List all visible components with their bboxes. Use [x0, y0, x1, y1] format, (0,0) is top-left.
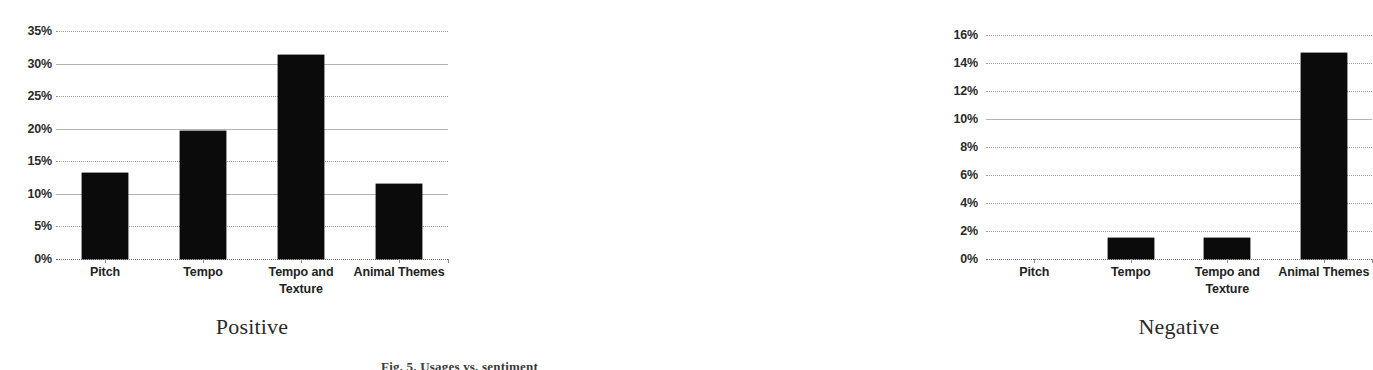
plot-area-negative — [986, 35, 1372, 259]
x-axis-labels-negative: PitchTempoTempo and TextureAnimal Themes — [986, 264, 1372, 308]
y-tick-label: 30% — [28, 57, 52, 71]
y-tick-label: 35% — [28, 24, 52, 38]
x-axis-tick — [1227, 259, 1228, 263]
panel-title-negative: Negative — [986, 314, 1372, 340]
bar-slot — [252, 31, 350, 259]
x-axis-tick — [1034, 259, 1035, 263]
bar[interactable] — [1204, 238, 1250, 259]
y-tick-label: 5% — [34, 219, 52, 233]
bar-slot — [986, 35, 1083, 259]
x-tick-label: Tempo and Texture — [252, 264, 350, 298]
y-axis-labels-positive: 0%5%10%15%20%25%30%35% — [8, 31, 52, 259]
y-tick-label: 20% — [28, 122, 52, 136]
chart-panel-positive: 0%5%10%15%20%25%30%35% PitchTempoTempo a… — [0, 0, 459, 348]
y-tick-label: 2% — [960, 224, 978, 238]
y-tick-label: 0% — [34, 252, 52, 266]
x-axis-labels-positive: PitchTempoTempo and TextureAnimal Themes — [56, 264, 448, 308]
x-axis-tick — [1131, 259, 1132, 263]
y-tick-label: 0% — [960, 252, 978, 266]
chart-panel-negative: 0%2%4%6%8%10%12%14%16% PitchTempoTempo a… — [460, 0, 919, 348]
y-tick-label: 10% — [28, 187, 52, 201]
bar-slot — [1083, 35, 1180, 259]
bar[interactable] — [82, 173, 128, 259]
bar[interactable] — [1301, 53, 1347, 259]
x-axis-tick — [301, 259, 302, 263]
bars-positive — [56, 31, 448, 259]
bar-slot — [154, 31, 252, 259]
x-tick-label: Tempo — [1083, 264, 1180, 281]
plot-area-positive — [56, 31, 448, 259]
bars-negative — [986, 35, 1372, 259]
x-axis-tick — [1324, 259, 1325, 263]
bar[interactable] — [180, 131, 226, 259]
figure-caption: Fig. 5. Usages vs. sentiment — [0, 359, 919, 370]
y-tick-label: 16% — [954, 28, 978, 42]
bar[interactable] — [376, 184, 422, 259]
y-tick-label: 12% — [954, 84, 978, 98]
x-tick-label: Tempo — [154, 264, 252, 281]
bar-slot — [1276, 35, 1373, 259]
y-axis-labels-negative: 0%2%4%6%8%10%12%14%16% — [934, 35, 978, 259]
x-tick-label: Tempo and Texture — [1179, 264, 1276, 298]
x-axis-tick — [105, 259, 106, 263]
x-axis-tick — [448, 259, 449, 263]
y-tick-label: 10% — [954, 112, 978, 126]
bar[interactable] — [278, 55, 324, 259]
bar-slot — [1179, 35, 1276, 259]
y-tick-label: 6% — [960, 168, 978, 182]
figure-caption-text: Fig. 5. Usages vs. sentiment — [0, 359, 919, 370]
x-tick-label: Animal Themes — [350, 264, 448, 281]
x-axis-tick — [399, 259, 400, 263]
y-tick-label: 4% — [960, 196, 978, 210]
bar-slot — [56, 31, 154, 259]
bar-slot — [350, 31, 448, 259]
x-axis-tick — [203, 259, 204, 263]
x-tick-label: Pitch — [56, 264, 154, 281]
bar[interactable] — [1108, 238, 1154, 259]
gridline — [56, 259, 448, 260]
y-tick-label: 25% — [28, 89, 52, 103]
y-tick-label: 14% — [954, 56, 978, 70]
panel-title-positive: Positive — [56, 314, 448, 340]
y-tick-label: 8% — [960, 140, 978, 154]
x-tick-label: Animal Themes — [1276, 264, 1373, 281]
gridline — [986, 259, 1372, 260]
x-tick-label: Pitch — [986, 264, 1083, 281]
y-tick-label: 15% — [28, 154, 52, 168]
